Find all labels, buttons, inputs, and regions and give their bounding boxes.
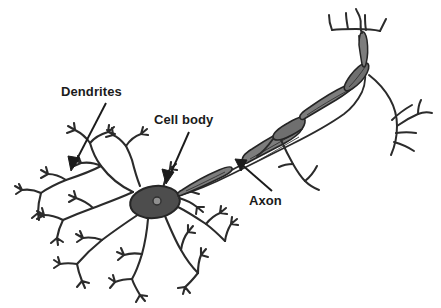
- axon-terminals: [257, 9, 432, 190]
- dendrites-label: Dendrites: [61, 85, 122, 98]
- dendrite-arbor: [15, 123, 238, 302]
- dendrites-arrow: [68, 103, 106, 171]
- axon-terminal-middle: [279, 140, 319, 190]
- dendrite-branch-far-left-upper: [15, 166, 101, 220]
- cell-body-arrow: [162, 132, 189, 184]
- dendrite-branch-bottom-right: [165, 216, 208, 294]
- axon-terminal-top: [329, 9, 386, 33]
- myelin-segment-1: [178, 167, 233, 196]
- cell-body-label: Cell body: [154, 113, 213, 126]
- nucleus: [153, 197, 161, 205]
- neuron-diagram-figure: Dendrites Cell body Axon: [0, 0, 441, 308]
- axon-label: Axon: [249, 194, 282, 207]
- myelin-segment-4: [359, 32, 368, 67]
- dendrite-branch-lower-left: [54, 214, 139, 288]
- dendrite-branch-right: [178, 206, 238, 241]
- myelin-branch-node: [273, 117, 305, 140]
- neuron-illustration: [0, 0, 441, 308]
- axon-terminal-right: [369, 75, 432, 155]
